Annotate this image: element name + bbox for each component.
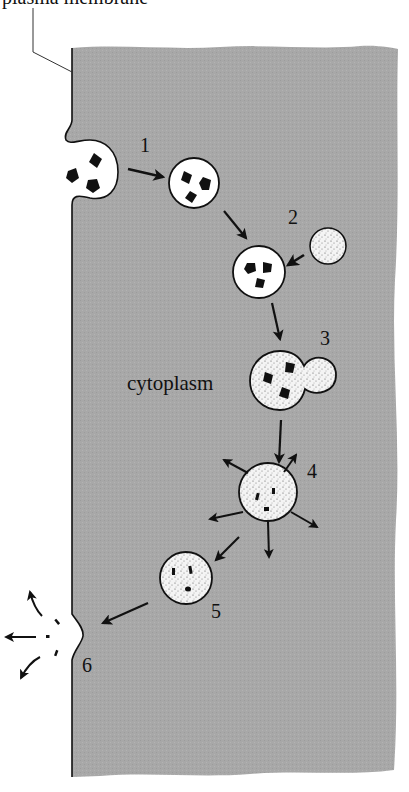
- fragment-icon: [172, 568, 175, 575]
- particle-icon: [66, 168, 79, 183]
- fragment-icon: [272, 488, 275, 494]
- curved-arrow-up: [30, 592, 42, 616]
- pocket-particles: [66, 153, 102, 193]
- step-label-5: 5: [211, 600, 221, 622]
- exocytosed-fragments: [6, 592, 60, 678]
- residual-body: [160, 552, 212, 604]
- fragment-icon: [264, 507, 269, 511]
- cytoplasm-label: cytoplasm: [127, 371, 213, 395]
- particle-icon: [86, 179, 100, 193]
- step-label-1: 1: [140, 134, 150, 156]
- diffusion-arrow: [268, 522, 269, 557]
- curved-arrow-down: [21, 657, 40, 678]
- fragment-icon: [185, 587, 191, 592]
- cytoplasm-region: [65, 46, 398, 777]
- endocytic-vesicle: [169, 158, 219, 208]
- fragment-icon: [54, 619, 60, 625]
- fragment-icon: [54, 650, 58, 656]
- fragment-icon: [46, 635, 50, 638]
- phagocytosis-diagram: plasma membrane 1 2 3 cytoplasm: [0, 0, 409, 792]
- plasma-membrane-label: plasma membrane: [2, 0, 148, 9]
- phagosome: [233, 246, 285, 298]
- lysosome: [310, 228, 346, 264]
- step-label-3: 3: [320, 327, 330, 349]
- step-label-4: 4: [307, 460, 317, 482]
- step-label-2: 2: [288, 206, 298, 228]
- particle-icon: [89, 153, 102, 168]
- leader-line: [33, 8, 72, 72]
- step-label-6: 6: [82, 654, 92, 676]
